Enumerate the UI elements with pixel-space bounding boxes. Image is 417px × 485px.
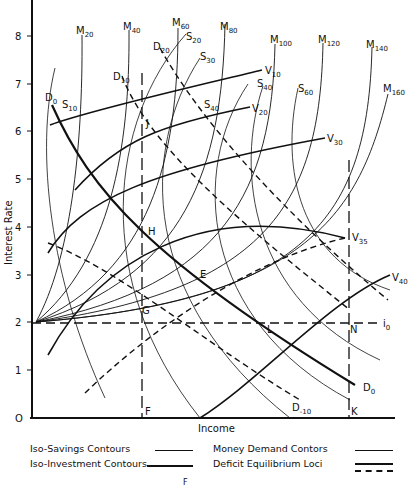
- legend-iso-investment-label: Iso-Investment Contours: [30, 458, 147, 469]
- svg-text:V40: V40: [392, 272, 408, 286]
- svg-text:L: L: [267, 324, 273, 335]
- legend-thick-line-icon: [147, 465, 193, 467]
- iso-savings-contours: [47, 34, 390, 418]
- figure-caption: F: [183, 478, 188, 485]
- legend-deficit-loci-label: Deficit Equilibrium Loci: [213, 458, 322, 469]
- deficit-locus-d0: [52, 105, 355, 385]
- legend-thin-line-icon: [355, 450, 393, 451]
- y-axis-label: Interest Rate: [3, 200, 14, 265]
- svg-text:V10: V10: [265, 65, 281, 79]
- y-tick-labels: 1 2 3 4 5 6 7 8 O: [15, 31, 23, 424]
- svg-text:7: 7: [15, 79, 21, 90]
- svg-text:K: K: [351, 406, 358, 417]
- svg-text:G: G: [142, 305, 150, 316]
- svg-text:V30: V30: [327, 133, 343, 147]
- svg-text:S40: S40: [204, 99, 219, 113]
- svg-text:D10: D10: [113, 71, 130, 85]
- svg-text:H: H: [148, 226, 156, 237]
- svg-text:6: 6: [15, 126, 21, 137]
- svg-text:M160: M160: [383, 83, 405, 97]
- svg-text:M100: M100: [270, 34, 292, 48]
- legend-thick-line-icon: [355, 463, 393, 465]
- svg-text:D-10: D-10: [292, 402, 311, 416]
- legend-iso-savings-label: Iso-Savings Contours: [30, 443, 130, 454]
- is-lm-diagram: 1 2 3 4 5 6 7 8 O Interest Rate Income: [0, 0, 417, 485]
- legend-dashed-line-icon: [355, 470, 393, 472]
- svg-text:S20: S20: [186, 31, 201, 45]
- svg-text:E: E: [200, 269, 206, 280]
- svg-text:1: 1: [15, 365, 21, 376]
- svg-text:S60: S60: [298, 83, 313, 97]
- svg-text:V20: V20: [252, 103, 268, 117]
- legend-thin-line-icon: [155, 450, 193, 451]
- x-axis-label: Income: [198, 423, 235, 434]
- svg-text:S40: S40: [257, 78, 272, 92]
- svg-text:S30: S30: [200, 51, 215, 65]
- svg-text:M80: M80: [220, 21, 238, 35]
- svg-text:S10: S10: [62, 99, 77, 113]
- svg-text:2: 2: [15, 317, 21, 328]
- point-labels: J H E G L N F K: [142, 118, 358, 417]
- svg-text:4: 4: [15, 222, 21, 233]
- svg-text:N: N: [350, 324, 357, 335]
- svg-text:M40: M40: [123, 21, 141, 35]
- deficit-dashed-loci: [48, 48, 388, 400]
- svg-text:D20: D20: [153, 41, 170, 55]
- svg-text:5: 5: [15, 174, 21, 185]
- svg-text:D0: D0: [45, 92, 57, 106]
- svg-text:D0: D0: [363, 382, 375, 396]
- svg-text:O: O: [15, 413, 23, 424]
- svg-text:J: J: [145, 118, 149, 129]
- svg-text:F: F: [145, 406, 151, 417]
- svg-text:8: 8: [15, 31, 21, 42]
- svg-text:3: 3: [15, 270, 21, 281]
- svg-text:M140: M140: [366, 39, 388, 53]
- svg-text:V35: V35: [352, 232, 368, 246]
- iso-investment-contours: [48, 70, 390, 418]
- svg-text:M20: M20: [76, 25, 94, 39]
- svg-text:M120: M120: [318, 34, 340, 48]
- svg-text:M60: M60: [172, 17, 190, 31]
- money-demand-contours: [36, 24, 388, 322]
- svg-text:i0: i0: [383, 318, 390, 332]
- legend-money-demand-label: Money Demand Contors: [213, 443, 328, 454]
